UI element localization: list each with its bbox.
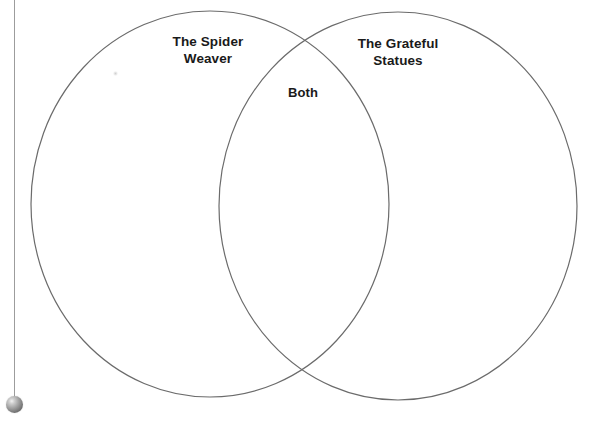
venn-diagram-worksheet: The Spider Weaver The Grateful Statues B… bbox=[0, 0, 605, 427]
scan-speckle-artifact bbox=[113, 71, 118, 76]
venn-label-both: Both bbox=[258, 84, 348, 101]
venn-label-left: The Spider Weaver bbox=[133, 33, 283, 67]
venn-label-right: The Grateful Statues bbox=[323, 35, 473, 69]
scanner-plumb-line-icon bbox=[14, 0, 15, 398]
venn-diagram-canvas bbox=[0, 0, 605, 427]
venn-circle-right bbox=[219, 12, 577, 400]
scanner-plumb-bob-icon bbox=[6, 396, 23, 413]
